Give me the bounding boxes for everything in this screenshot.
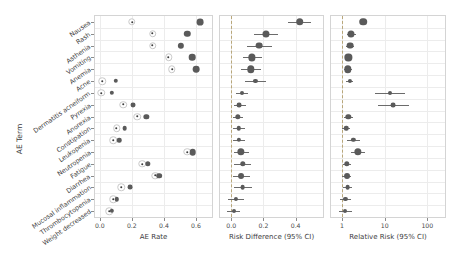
gridline-horizontal — [95, 40, 212, 41]
gridline-vertical — [427, 16, 428, 217]
x-tick-mark — [385, 218, 386, 221]
gridline-horizontal — [220, 99, 323, 100]
gridline-horizontal — [95, 182, 212, 183]
gridline-horizontal — [95, 63, 212, 64]
estimate-marker — [346, 114, 351, 119]
estimate-marker — [262, 30, 269, 37]
panel-risk-difference — [219, 15, 324, 218]
gridline-horizontal — [220, 134, 323, 135]
gridline-horizontal — [220, 205, 323, 206]
x-tick-mark — [164, 218, 165, 221]
estimate-marker — [234, 197, 238, 201]
gridline-horizontal — [220, 40, 323, 41]
estimate-marker — [237, 148, 244, 155]
data-point-control — [168, 65, 176, 73]
estimate-marker — [345, 185, 350, 190]
x-tick-mark — [132, 218, 133, 221]
estimate-marker — [235, 114, 240, 119]
gridline-horizontal — [95, 87, 212, 88]
x-tick-label: 0.6 — [191, 222, 201, 229]
x-tick-label: 0.4 — [291, 222, 301, 229]
estimate-marker — [344, 66, 351, 73]
x-tick-label: 10 — [381, 222, 389, 229]
data-point-treatment — [184, 31, 190, 37]
estimate-marker — [351, 138, 355, 142]
estimate-marker — [253, 79, 257, 83]
gridline-horizontal — [95, 146, 212, 147]
estimate-marker — [238, 173, 244, 179]
data-point-treatment — [130, 102, 135, 107]
estimate-marker — [256, 42, 263, 49]
gridline-horizontal — [95, 134, 212, 135]
gridline-horizontal — [220, 63, 323, 64]
gridline-horizontal — [220, 170, 323, 171]
gridline-horizontal — [95, 75, 212, 76]
estimate-marker — [343, 209, 347, 213]
data-point-control — [98, 77, 106, 85]
estimate-marker — [236, 138, 240, 142]
gridline-horizontal — [95, 193, 212, 194]
gridline-horizontal — [220, 51, 323, 52]
data-point-treatment — [156, 173, 162, 179]
y-axis-title: AE Term — [15, 124, 24, 154]
gridline-horizontal — [95, 111, 212, 112]
data-point-treatment — [114, 197, 118, 201]
gridline-horizontal — [220, 193, 323, 194]
estimate-marker — [354, 148, 361, 155]
data-point-treatment — [128, 185, 133, 190]
gridline-horizontal — [220, 122, 323, 123]
estimate-marker — [296, 18, 304, 26]
gridline-horizontal — [95, 158, 212, 159]
data-point-treatment — [197, 19, 204, 26]
estimate-marker — [344, 161, 349, 166]
data-point-treatment — [122, 126, 127, 131]
x-tick-label: 0.2 — [259, 222, 269, 229]
gridline-vertical — [385, 16, 386, 217]
gridline-horizontal — [95, 170, 212, 171]
estimate-marker — [388, 91, 392, 95]
data-point-treatment — [114, 79, 118, 83]
gridline-horizontal — [220, 111, 323, 112]
data-point-control — [149, 42, 157, 50]
data-point-control — [128, 18, 136, 26]
data-point-control — [119, 101, 127, 109]
estimate-marker — [247, 66, 254, 73]
x-tick-mark — [100, 218, 101, 221]
forest-plot-figure: AE Term NauseaRashAstheniaVomitingAnemia… — [0, 0, 451, 278]
data-point-treatment — [110, 209, 114, 213]
x-axis-title-risk-difference: Risk Difference (95% CI) — [229, 233, 314, 241]
x-tick-mark — [263, 218, 264, 221]
x-tick-label: 0.4 — [159, 222, 169, 229]
estimate-marker — [236, 126, 241, 131]
gridline-horizontal — [220, 182, 323, 183]
data-point-control — [113, 125, 121, 133]
gridline-horizontal — [95, 99, 212, 100]
gridline-horizontal — [220, 146, 323, 147]
data-point-treatment — [144, 114, 149, 119]
x-tick-mark — [196, 218, 197, 221]
x-tick-label: 0.0 — [226, 222, 236, 229]
gridline-horizontal — [220, 87, 323, 88]
x-tick-label: 100 — [421, 222, 433, 229]
x-tick-label: 1 — [340, 222, 344, 229]
estimate-marker — [391, 102, 396, 107]
data-point-treatment — [189, 54, 196, 61]
gridline-horizontal — [220, 158, 323, 159]
estimate-marker — [348, 30, 355, 37]
estimate-marker — [240, 161, 245, 166]
estimate-marker — [345, 54, 352, 61]
gridline-horizontal — [220, 28, 323, 29]
gridline-horizontal — [95, 28, 212, 29]
estimate-marker — [347, 42, 354, 49]
data-point-control — [165, 54, 173, 62]
estimate-marker — [237, 102, 242, 107]
data-point-treatment — [189, 149, 196, 156]
gridline-vertical — [164, 16, 165, 217]
estimate-marker — [240, 185, 245, 190]
x-axis-title-relative-risk: Relative Risk (95% CI) — [349, 233, 426, 241]
estimate-marker — [232, 209, 236, 213]
data-point-treatment — [117, 138, 122, 143]
estimate-marker — [249, 54, 256, 61]
gridline-horizontal — [95, 122, 212, 123]
x-tick-mark — [427, 218, 428, 221]
